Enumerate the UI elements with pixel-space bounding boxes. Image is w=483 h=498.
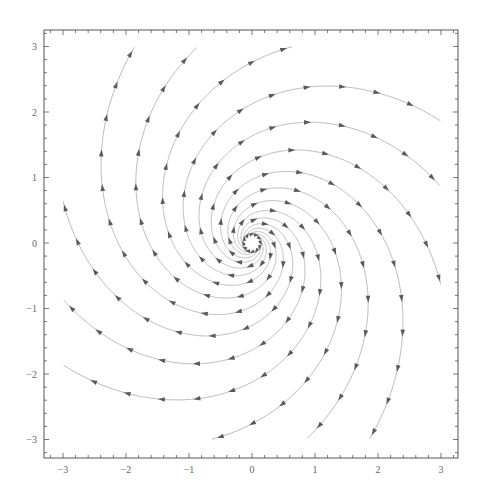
flow-arrow-icon <box>245 278 253 285</box>
x-tick-label: −2 <box>121 464 132 475</box>
flow-arrow-icon <box>304 120 311 125</box>
flow-arrow-icon <box>198 227 204 235</box>
flow-arrow-icon <box>328 180 336 187</box>
flow-arrow-icon <box>210 202 216 210</box>
flow-arrow-icon <box>299 286 305 294</box>
flow-arrow-icon <box>181 190 187 198</box>
flow-arrow-icon <box>236 293 244 299</box>
flow-arrow-icon <box>198 192 204 200</box>
flow-arrow-icon <box>322 348 329 356</box>
flow-arrow-icon <box>103 113 109 121</box>
flow-arrow-icon <box>150 248 158 256</box>
flow-arrow-icon <box>370 428 377 436</box>
x-tick-label: −1 <box>184 464 195 475</box>
flow-arrow-icon <box>346 229 354 237</box>
y-tick-label: 1 <box>32 172 37 183</box>
flow-arrow-icon <box>366 296 371 303</box>
flow-arrow-icon <box>362 330 368 338</box>
flow-arrow-icon <box>99 149 104 156</box>
flow-arrow-icon <box>315 254 321 262</box>
flow-arrow-icon <box>373 90 381 96</box>
flow-arrow-icon <box>377 228 385 236</box>
flow-arrow-icon <box>406 101 414 108</box>
flow-arrow-icon <box>89 378 97 385</box>
flow-arrow-icon <box>227 355 235 361</box>
streamline <box>211 150 441 285</box>
flow-arrows <box>62 46 443 440</box>
flow-arrow-icon <box>296 170 304 176</box>
flow-arrow-icon <box>332 248 339 256</box>
streamline <box>221 171 403 438</box>
streamline <box>101 47 283 314</box>
flow-arrow-icon <box>145 115 152 123</box>
flow-arrow-icon <box>163 162 169 170</box>
flow-arrow-icon <box>218 217 223 225</box>
flow-arrow-icon <box>251 201 259 208</box>
flow-arrow-icon <box>288 148 295 153</box>
flow-arrow-icon <box>300 251 306 259</box>
flow-arrow-icon <box>174 329 182 335</box>
flow-arrow-icon <box>142 315 150 322</box>
x-tick-label: 2 <box>376 464 381 475</box>
flow-arrow-icon <box>216 434 224 441</box>
flow-arrow-icon <box>371 133 379 140</box>
streamline <box>228 188 368 439</box>
flow-arrow-icon <box>401 151 409 159</box>
streamlines <box>63 47 441 440</box>
flow-arrow-icon <box>280 46 288 53</box>
flow-arrow-icon <box>322 151 330 157</box>
flow-arrow-icon <box>238 138 246 146</box>
flow-arrow-icon <box>286 242 293 250</box>
flow-arrow-icon <box>127 50 134 58</box>
flow-arrow-icon <box>258 340 266 348</box>
flow-arrow-icon <box>231 226 237 234</box>
x-tick-label: −3 <box>58 464 69 475</box>
flow-arrow-icon <box>391 260 398 268</box>
flow-arrow-icon <box>248 59 256 66</box>
flow-arrow-icon <box>136 148 142 156</box>
flow-arrow-icon <box>336 394 344 402</box>
flow-arrow-icon <box>384 397 391 405</box>
plot-frame <box>44 30 458 458</box>
y-axis-tick-labels: −3−2−10123 <box>26 41 37 445</box>
flow-arrow-icon <box>436 274 442 282</box>
flow-arrow-icon <box>160 84 168 92</box>
flow-arrow-icon <box>270 208 278 214</box>
flow-arrow-icon <box>423 240 430 248</box>
flow-arrow-icon <box>267 253 273 261</box>
flow-arrow-icon <box>138 217 144 225</box>
flow-arrow-icon <box>352 363 359 371</box>
streamline <box>183 86 440 276</box>
streamline <box>163 47 292 286</box>
flow-arrow-icon <box>74 237 81 245</box>
x-tick-label: 3 <box>439 464 444 475</box>
stream-plot: −3−2−10123 −3−2−10123 <box>0 0 483 498</box>
flow-arrow-icon <box>271 241 278 249</box>
flow-arrow-icon <box>260 187 268 193</box>
flow-arrow-icon <box>158 357 166 363</box>
flow-arrow-icon <box>235 259 243 265</box>
flow-arrow-icon <box>262 171 270 177</box>
flow-arrow-icon <box>113 81 120 89</box>
flow-arrow-icon <box>246 263 254 270</box>
flow-arrow-icon <box>400 330 405 337</box>
streamline <box>63 201 293 336</box>
flow-arrow-icon <box>191 157 198 165</box>
flow-arrow-icon <box>123 390 131 396</box>
flow-arrow-icon <box>106 218 113 226</box>
y-tick-label: −2 <box>26 369 37 380</box>
flow-arrow-icon <box>294 188 302 194</box>
flow-arrow-icon <box>158 397 165 402</box>
flow-arrow-icon <box>288 276 294 284</box>
flow-arrow-icon <box>209 333 216 338</box>
flow-arrow-icon <box>133 183 138 190</box>
y-tick-label: −3 <box>26 434 37 445</box>
y-tick-label: 3 <box>32 41 37 52</box>
flow-arrow-icon <box>280 261 285 269</box>
x-tick-label: 0 <box>250 464 255 475</box>
flow-arrow-icon <box>168 298 176 305</box>
streamline <box>136 47 276 298</box>
flow-arrow-icon <box>226 236 233 244</box>
flow-arrow-icon <box>335 316 341 324</box>
flow-arrow-icon <box>234 309 242 315</box>
